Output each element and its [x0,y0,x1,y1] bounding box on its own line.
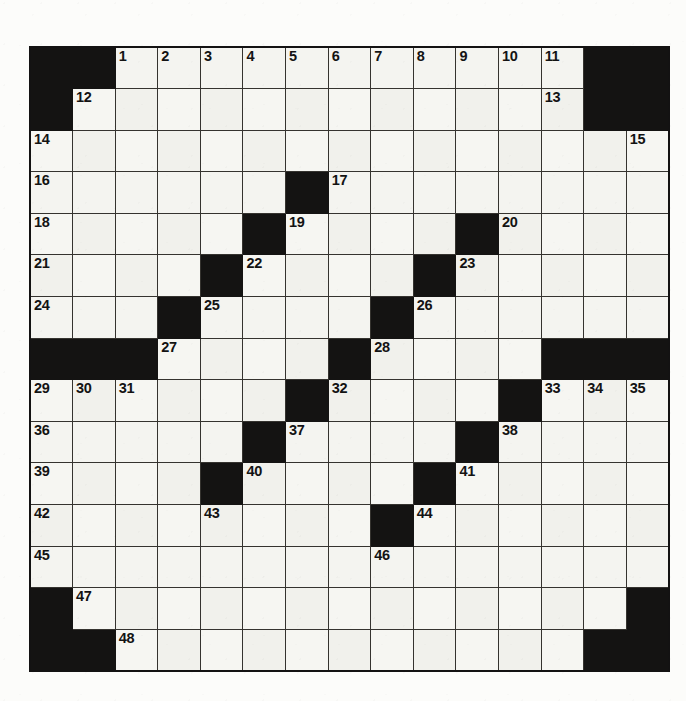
crossword-cell-numbered[interactable]: 26 [413,297,456,339]
crossword-cell[interactable] [158,588,201,630]
crossword-cell-numbered[interactable]: 7 [371,47,414,89]
crossword-cell-numbered[interactable]: 30 [73,380,116,422]
crossword-cell[interactable] [541,588,584,630]
crossword-cell-numbered[interactable]: 2 [158,47,201,89]
crossword-cell-numbered[interactable]: 1 [115,47,158,89]
crossword-cell[interactable] [413,130,456,172]
crossword-cell[interactable] [115,89,158,131]
crossword-cell[interactable] [200,421,243,463]
crossword-cell-numbered[interactable]: 43 [200,505,243,547]
crossword-cell-numbered[interactable]: 15 [626,130,669,172]
crossword-cell-numbered[interactable]: 18 [30,213,73,255]
crossword-cell[interactable] [158,172,201,214]
crossword-cell[interactable] [200,213,243,255]
crossword-cell[interactable] [328,463,371,505]
crossword-cell[interactable] [541,421,584,463]
crossword-cell[interactable] [413,172,456,214]
crossword-cell[interactable] [626,255,669,297]
crossword-cell[interactable] [328,130,371,172]
crossword-cell[interactable] [584,172,627,214]
crossword-cell[interactable] [286,130,329,172]
crossword-cell[interactable] [286,505,329,547]
crossword-cell[interactable] [584,505,627,547]
crossword-cell-numbered[interactable]: 28 [371,338,414,380]
crossword-cell[interactable] [200,629,243,671]
crossword-cell[interactable] [243,629,286,671]
crossword-cell[interactable] [243,130,286,172]
crossword-cell[interactable] [371,213,414,255]
crossword-cell[interactable] [499,255,542,297]
crossword-cell[interactable] [371,89,414,131]
crossword-cell-numbered[interactable]: 41 [456,463,499,505]
crossword-cell[interactable] [286,588,329,630]
crossword-grid[interactable]: 1234567891011121314151617181920212223242… [29,46,670,672]
crossword-cell[interactable] [499,338,542,380]
crossword-cell-numbered[interactable]: 20 [499,213,542,255]
crossword-cell[interactable] [286,463,329,505]
crossword-cell[interactable] [499,130,542,172]
crossword-cell[interactable] [371,421,414,463]
crossword-cell[interactable] [115,172,158,214]
crossword-cell-numbered[interactable]: 5 [286,47,329,89]
crossword-cell[interactable] [243,546,286,588]
crossword-cell-numbered[interactable]: 32 [328,380,371,422]
crossword-cell-numbered[interactable]: 47 [73,588,116,630]
crossword-cell[interactable] [243,338,286,380]
crossword-cell[interactable] [328,89,371,131]
crossword-cell[interactable] [328,588,371,630]
crossword-cell[interactable] [584,255,627,297]
crossword-cell[interactable] [584,588,627,630]
crossword-cell[interactable] [584,546,627,588]
crossword-cell[interactable] [371,380,414,422]
crossword-cell[interactable] [413,338,456,380]
crossword-cell[interactable] [541,130,584,172]
crossword-cell[interactable] [371,172,414,214]
crossword-cell[interactable] [73,546,116,588]
crossword-cell[interactable] [413,421,456,463]
crossword-cell[interactable] [243,505,286,547]
crossword-cell[interactable] [73,255,116,297]
crossword-cell[interactable] [286,546,329,588]
crossword-cell[interactable] [243,172,286,214]
crossword-cell[interactable] [499,89,542,131]
crossword-cell[interactable] [73,297,116,339]
crossword-cell-numbered[interactable]: 6 [328,47,371,89]
crossword-cell[interactable] [286,629,329,671]
crossword-cell-numbered[interactable]: 36 [30,421,73,463]
crossword-cell[interactable] [328,546,371,588]
crossword-cell[interactable] [115,255,158,297]
crossword-cell[interactable] [626,546,669,588]
crossword-cell[interactable] [243,89,286,131]
crossword-cell[interactable] [413,380,456,422]
crossword-cell[interactable] [158,546,201,588]
crossword-cell[interactable] [115,505,158,547]
crossword-cell-numbered[interactable]: 16 [30,172,73,214]
crossword-cell-numbered[interactable]: 45 [30,546,73,588]
crossword-cell[interactable] [73,172,116,214]
crossword-cell[interactable] [413,629,456,671]
crossword-cell-numbered[interactable]: 33 [541,380,584,422]
crossword-cell[interactable] [541,213,584,255]
crossword-cell[interactable] [328,629,371,671]
crossword-cell[interactable] [328,255,371,297]
crossword-cell[interactable] [499,546,542,588]
crossword-cell[interactable] [456,297,499,339]
crossword-cell-numbered[interactable]: 44 [413,505,456,547]
crossword-cell[interactable] [73,463,116,505]
crossword-cell-numbered[interactable]: 8 [413,47,456,89]
crossword-cell[interactable] [328,421,371,463]
crossword-cell[interactable] [158,463,201,505]
crossword-cell-numbered[interactable]: 4 [243,47,286,89]
crossword-cell[interactable] [371,629,414,671]
crossword-cell[interactable] [371,463,414,505]
crossword-cell[interactable] [584,463,627,505]
crossword-cell[interactable] [499,505,542,547]
crossword-cell[interactable] [456,380,499,422]
crossword-cell[interactable] [413,588,456,630]
crossword-cell[interactable] [413,89,456,131]
crossword-cell[interactable] [200,588,243,630]
crossword-cell[interactable] [115,588,158,630]
crossword-cell[interactable] [158,629,201,671]
crossword-cell[interactable] [286,338,329,380]
crossword-cell[interactable] [584,213,627,255]
